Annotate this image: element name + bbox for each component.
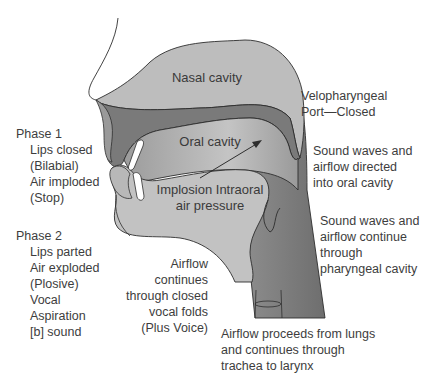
phase-2-item: Air exploded — [16, 260, 100, 276]
note-line: (Plus Voice) — [118, 320, 208, 336]
phase-1-heading: Phase 1 — [16, 126, 99, 142]
note-line: into oral cavity — [313, 175, 412, 191]
phase-1-item: Lips closed — [16, 142, 99, 158]
sound-pharyngeal-note: Sound waves and airflow continue through… — [320, 213, 419, 277]
phase-2-item: Vocal — [16, 292, 100, 308]
note-line: vocal folds — [118, 304, 208, 320]
phase-2-item: (Plosive) — [16, 276, 100, 292]
airflow-lungs-note: Airflow proceeds from lungs and continue… — [221, 326, 375, 374]
note-line: through closed — [118, 288, 208, 304]
note-line: pharyngeal cavity — [320, 261, 419, 277]
vocal-tract-diagram: Nasal cavity Oral cavity Implosion Intra… — [0, 0, 441, 383]
note-line: Port—Closed — [301, 104, 387, 120]
note-line: Airflow — [118, 256, 208, 272]
phase-1-item: (Bilabial) — [16, 158, 99, 174]
note-line: through — [320, 245, 419, 261]
phase-1-block: Phase 1 Lips closed (Bilabial) Air implo… — [16, 126, 99, 206]
phase-2-block: Phase 2 Lips parted Air exploded (Plosiv… — [16, 228, 100, 340]
note-line: and continues through — [221, 342, 375, 358]
label-implosion-line2: air pressure — [176, 198, 245, 213]
note-line: Sound waves and — [313, 143, 412, 159]
phase-1-item: (Stop) — [16, 190, 99, 206]
sound-oral-note: Sound waves and airflow directed into or… — [313, 143, 412, 191]
phase-2-item: Lips parted — [16, 244, 100, 260]
note-line: Airflow proceeds from lungs — [221, 326, 375, 342]
note-line: Sound waves and — [320, 213, 419, 229]
phase-2-item: Aspiration — [16, 308, 100, 324]
nose-profile-line — [89, 18, 118, 100]
note-line: Velopharyngeal — [301, 88, 387, 104]
note-line: continues — [118, 272, 208, 288]
label-implosion-line1: Implosion Intraoral — [157, 182, 264, 197]
phase-2-heading: Phase 2 — [16, 228, 100, 244]
note-line: trachea to larynx — [221, 358, 375, 374]
airflow-vocal-folds-note: Airflow continues through closed vocal f… — [118, 256, 208, 336]
note-line: airflow directed — [313, 159, 412, 175]
phase-1-item: Air imploded — [16, 174, 99, 190]
velopharyngeal-note: Velopharyngeal Port—Closed — [301, 88, 387, 120]
label-oral-cavity: Oral cavity — [179, 134, 241, 149]
note-line: airflow continue — [320, 229, 419, 245]
label-nasal-cavity: Nasal cavity — [172, 70, 243, 85]
phase-2-item: [b] sound — [16, 324, 100, 340]
